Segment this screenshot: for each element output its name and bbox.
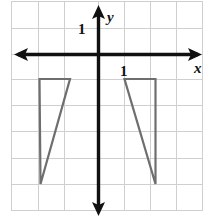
coordinate-plane-figure: 1 1 y x	[0, 0, 216, 223]
figure-background	[0, 0, 216, 223]
x-axis-tick-label-one: 1	[120, 63, 128, 79]
coordinate-plane-svg: 1 1 y x	[0, 0, 216, 223]
y-axis-tick-label-one: 1	[78, 21, 86, 37]
y-axis-label: y	[105, 9, 114, 25]
x-axis-label: x	[193, 60, 202, 76]
